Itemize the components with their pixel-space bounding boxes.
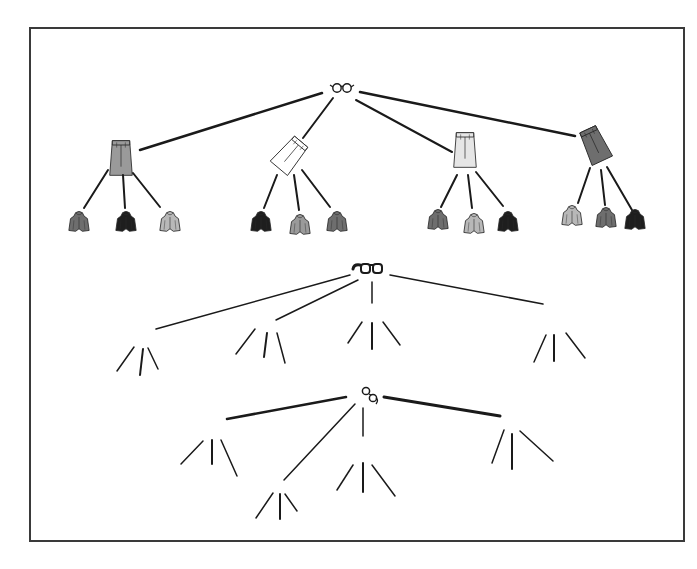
- leaf-stub: [181, 441, 203, 464]
- branch-node: [337, 408, 395, 496]
- jacket-icon: [464, 213, 484, 233]
- branch-node: [236, 280, 358, 363]
- jacket-icon: [625, 209, 645, 229]
- branch-node: [384, 397, 553, 469]
- leaf-stub: [148, 348, 158, 369]
- skirt-icon: [270, 134, 310, 175]
- tree-edge: [302, 170, 330, 207]
- branch-node: [117, 275, 350, 375]
- tree-edge: [276, 280, 358, 320]
- jacket-icon: [327, 211, 347, 231]
- tree-edge: [303, 98, 333, 138]
- skirt-icon: [577, 125, 612, 166]
- leaf-stub: [337, 465, 353, 490]
- leaf-stub: [140, 349, 143, 375]
- tree-edge: [468, 175, 472, 208]
- tree-diagram: [0, 0, 697, 569]
- leaf-stub: [117, 347, 134, 371]
- diagram-frame: [30, 28, 684, 541]
- tree-edge: [360, 92, 575, 136]
- leaf-stub: [520, 431, 553, 461]
- jacket-icon: [69, 211, 89, 231]
- glasses-icon: [362, 387, 377, 404]
- branch-node: [251, 98, 347, 234]
- leaf-stub: [236, 329, 255, 354]
- tree-edge: [284, 404, 355, 480]
- tree-edge: [607, 167, 632, 210]
- leaf-stub: [383, 322, 400, 345]
- skirt-icon: [110, 141, 133, 176]
- tree-edge: [264, 175, 277, 208]
- jacket-icon: [116, 211, 136, 231]
- branch-node: [348, 282, 400, 349]
- tree-edge: [601, 170, 605, 205]
- tree-edge: [133, 173, 160, 207]
- leaf-stub: [534, 335, 546, 362]
- jacket-icon: [251, 211, 271, 231]
- leaf-stub: [566, 333, 585, 358]
- jacket-icon: [160, 211, 180, 231]
- glasses-icon: [330, 84, 354, 92]
- tree-edge: [123, 175, 125, 208]
- tree-edge: [156, 275, 350, 329]
- leaf-stub: [372, 465, 395, 496]
- tree-edge: [578, 168, 590, 203]
- tree-edge: [476, 172, 503, 206]
- branch-node: [256, 404, 355, 519]
- tree-edge: [84, 170, 108, 208]
- leaf-stub: [256, 493, 273, 518]
- leaf-stub: [277, 333, 285, 363]
- tree-edge: [294, 175, 299, 210]
- jacket-icon: [562, 205, 582, 225]
- jacket-icon: [596, 207, 616, 227]
- leaf-stub: [492, 430, 504, 463]
- tree-edge: [227, 397, 346, 419]
- leaf-stub: [221, 440, 237, 476]
- branch-node: [181, 397, 346, 476]
- branch-node: [360, 92, 645, 229]
- branch-node: [390, 275, 585, 362]
- skirt-icon: [454, 133, 477, 168]
- jacket-icon: [498, 211, 518, 231]
- leaf-stub: [264, 333, 267, 357]
- leaf-stub: [285, 494, 297, 511]
- tree-edge: [441, 175, 457, 207]
- tree-edge: [384, 397, 500, 416]
- trees-layer: [69, 84, 645, 519]
- tree-bottom: [181, 387, 553, 519]
- jacket-icon: [428, 209, 448, 229]
- tree-top: [69, 84, 645, 235]
- leaf-stub: [348, 322, 362, 343]
- tree-edge: [390, 275, 543, 304]
- glasses-icon: [353, 264, 382, 273]
- jacket-icon: [290, 214, 310, 234]
- tree-middle: [117, 264, 585, 375]
